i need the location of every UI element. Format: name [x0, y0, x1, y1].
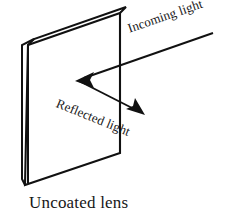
- figure-caption: Uncoated lens: [29, 193, 128, 213]
- diagram-canvas: [0, 0, 229, 222]
- optics-diagram-figure: Incoming light Reflected light Uncoated …: [0, 0, 229, 222]
- lens-front-face: [25, 13, 120, 185]
